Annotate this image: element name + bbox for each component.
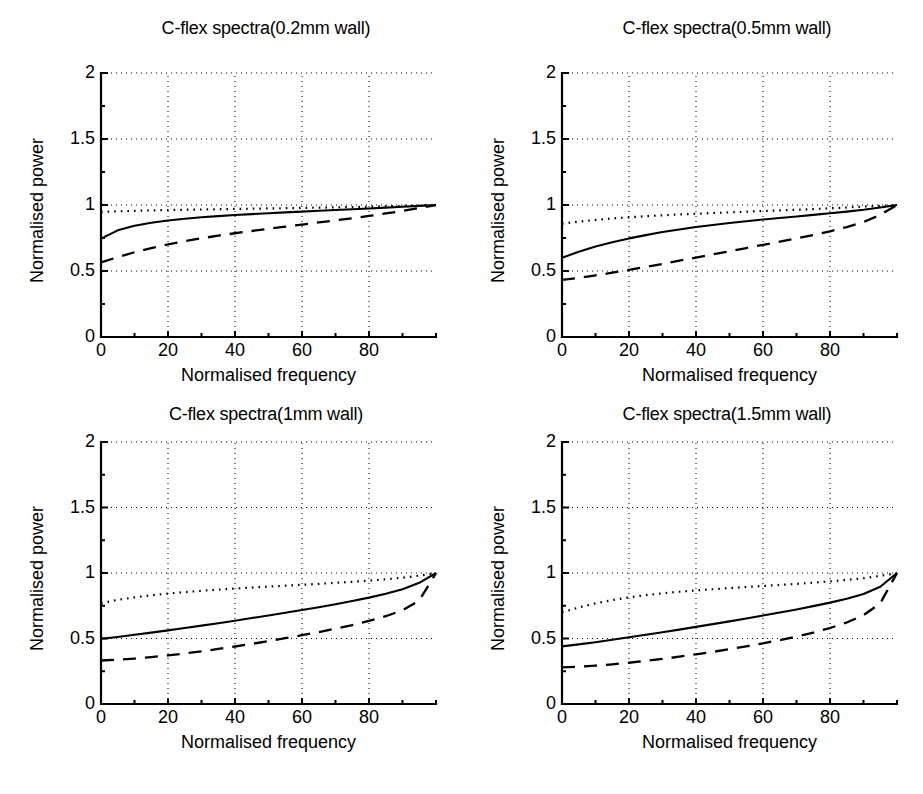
x-tick-label: 60 (733, 707, 793, 728)
panel-title: C-flex spectra(0.5mm wall) (557, 18, 897, 39)
y-axis-label: Normalised power (488, 138, 509, 283)
series-line-dotted (562, 573, 897, 612)
x-tick-label: 20 (599, 707, 659, 728)
series-line-dotted (562, 205, 897, 224)
plot-canvas (97, 69, 472, 373)
y-axis-label: Normalised power (488, 506, 509, 651)
x-tick-label: 20 (138, 707, 198, 728)
y-tick-label: 2 (35, 431, 95, 452)
x-axis-label: Normalised frequency (522, 365, 923, 386)
y-tick-label: 0 (35, 326, 95, 347)
series-line-dotted (101, 573, 436, 603)
panel-title: C-flex spectra(1.5mm wall) (557, 404, 897, 425)
x-tick-label: 20 (599, 340, 659, 361)
plot-canvas (558, 438, 923, 740)
x-tick-label: 80 (800, 340, 860, 361)
x-tick-label: 40 (205, 707, 265, 728)
y-tick-label: 0 (35, 693, 95, 714)
x-axis-label: Normalised frequency (61, 365, 476, 386)
grid-lines (101, 442, 436, 704)
series-line-solid (101, 205, 436, 239)
panel-title: C-flex spectra(1mm wall) (96, 404, 436, 425)
x-tick-label: 60 (733, 340, 793, 361)
figure-canvas: C-flex spectra(0.2mm wall) 02040608000.5… (0, 0, 923, 794)
x-tick-label: 60 (272, 707, 332, 728)
plot-canvas (97, 438, 472, 740)
y-axis-label: Normalised power (27, 138, 48, 283)
panel-0-5mm-wall: C-flex spectra(0.5mm wall) 02040608000.5… (461, 18, 923, 398)
plot-canvas (558, 69, 923, 373)
y-tick-label: 2 (496, 431, 556, 452)
x-tick-label: 80 (339, 707, 399, 728)
y-tick-label: 2 (496, 62, 556, 83)
x-tick-label: 80 (800, 707, 860, 728)
series-line-dashed (562, 573, 897, 667)
x-axis-label: Normalised frequency (522, 732, 923, 753)
panel-0-2mm-wall: C-flex spectra(0.2mm wall) 02040608000.5… (0, 18, 462, 398)
x-tick-label: 80 (339, 340, 399, 361)
series-line-solid (562, 205, 897, 258)
x-tick-label: 40 (205, 340, 265, 361)
panel-1-5mm-wall: C-flex spectra(1.5mm wall) 02040608000.5… (461, 404, 923, 794)
x-tick-label: 60 (272, 340, 332, 361)
panel-1mm-wall: C-flex spectra(1mm wall) 02040608000.511… (0, 404, 462, 794)
y-tick-label: 0 (496, 693, 556, 714)
x-tick-label: 40 (666, 340, 726, 361)
x-axis-label: Normalised frequency (61, 732, 476, 753)
grid-lines (562, 73, 897, 337)
x-tick-label: 20 (138, 340, 198, 361)
series-line-solid (101, 573, 436, 639)
y-tick-label: 2 (35, 62, 95, 83)
series-line-dashed (101, 573, 436, 661)
y-tick-label: 0 (496, 326, 556, 347)
series-line-solid (562, 573, 897, 646)
x-tick-label: 40 (666, 707, 726, 728)
grid-lines (101, 73, 436, 337)
y-axis-label: Normalised power (27, 506, 48, 651)
panel-title: C-flex spectra(0.2mm wall) (96, 18, 436, 39)
